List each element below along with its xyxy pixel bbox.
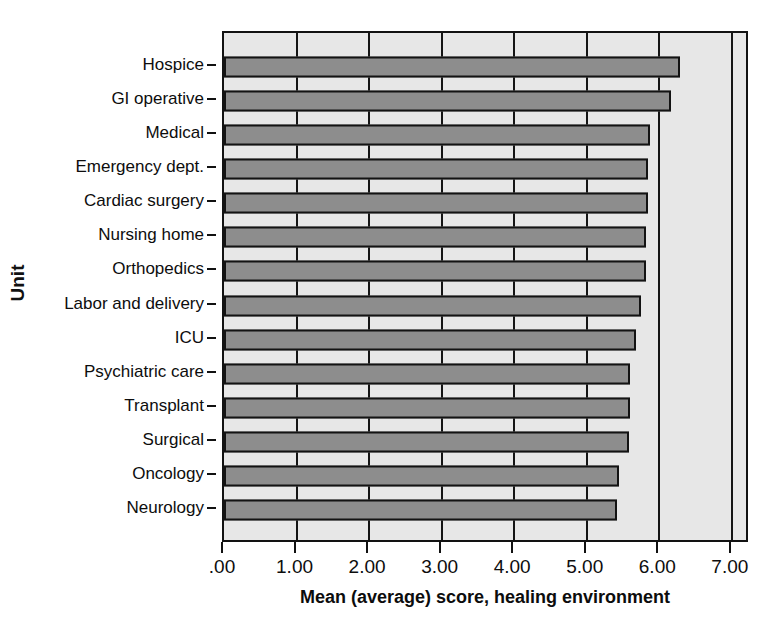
y-axis-tick-mark (207, 337, 216, 339)
chart-figure: Unit HospiceGI operativeMedicalEmergency… (0, 0, 768, 629)
y-axis-tick-mark (207, 268, 216, 270)
x-axis-tick-label: .00 (209, 556, 235, 578)
x-axis-tick-mark (584, 542, 586, 553)
x-axis-title: Mean (average) score, healing environmen… (222, 587, 748, 608)
y-axis-tick-label: Surgical (143, 431, 204, 449)
x-axis: Mean (average) score, healing environmen… (222, 542, 748, 622)
bar (224, 295, 641, 316)
y-axis-category-labels: HospiceGI operativeMedicalEmergency dept… (0, 31, 216, 542)
y-axis-tick-mark (207, 405, 216, 407)
plot-area (222, 31, 748, 542)
bar (224, 227, 646, 248)
bar (224, 261, 646, 282)
y-axis-tick-mark (207, 200, 216, 202)
bar (224, 159, 648, 180)
x-axis-tick-label: 2.00 (349, 556, 386, 578)
y-axis-tick-label: Orthopedics (112, 260, 204, 278)
plot-inner (224, 33, 746, 540)
y-axis-tick-mark (207, 439, 216, 441)
x-axis-tick-mark (511, 542, 513, 553)
y-axis-tick-mark (207, 132, 216, 134)
x-axis-tick-label: 5.00 (566, 556, 603, 578)
x-axis-tick-mark (366, 542, 368, 553)
x-axis-tick-label: 4.00 (494, 556, 531, 578)
bar (224, 91, 671, 112)
bar (224, 465, 619, 486)
y-axis-tick-label: Hospice (143, 56, 204, 74)
y-axis-tick-label: Oncology (132, 465, 204, 483)
bar (224, 193, 648, 214)
y-axis-tick-label: ICU (175, 329, 204, 347)
x-axis-tick-mark (221, 542, 223, 553)
x-axis-tick-mark (656, 542, 658, 553)
y-axis-tick-mark (207, 303, 216, 305)
x-axis-tick-label: 3.00 (421, 556, 458, 578)
x-axis-tick-mark (294, 542, 296, 553)
x-axis-tick-label: 7.00 (711, 556, 748, 578)
y-axis-tick-label: Nursing home (98, 226, 204, 244)
x-axis-tick-label: 1.00 (276, 556, 313, 578)
y-axis-tick-label: Medical (145, 124, 204, 142)
bar (224, 329, 636, 350)
x-axis-tick-label: 6.00 (639, 556, 676, 578)
bar (224, 363, 630, 384)
y-axis-tick-mark (207, 64, 216, 66)
y-axis-tick-mark (207, 234, 216, 236)
y-axis-tick-label: Emergency dept. (75, 158, 204, 176)
y-axis-tick-label: Neurology (127, 499, 205, 517)
y-axis-tick-mark (207, 98, 216, 100)
y-axis-tick-label: GI operative (111, 90, 204, 108)
y-axis-tick-label: Cardiac surgery (84, 192, 204, 210)
y-axis-tick-label: Labor and delivery (64, 295, 204, 313)
bar (224, 431, 629, 452)
y-axis-tick-mark (207, 371, 216, 373)
y-axis-tick-label: Psychiatric care (84, 363, 204, 381)
y-axis-tick-mark (207, 473, 216, 475)
bar (224, 397, 630, 418)
gridline-x-7 (731, 33, 733, 540)
bar (224, 125, 650, 146)
x-axis-tick-mark (729, 542, 731, 553)
bar (224, 57, 680, 78)
y-axis-tick-label: Transplant (124, 397, 204, 415)
y-axis-tick-mark (207, 507, 216, 509)
bar (224, 499, 617, 520)
x-axis-tick-mark (439, 542, 441, 553)
y-axis-tick-mark (207, 166, 216, 168)
